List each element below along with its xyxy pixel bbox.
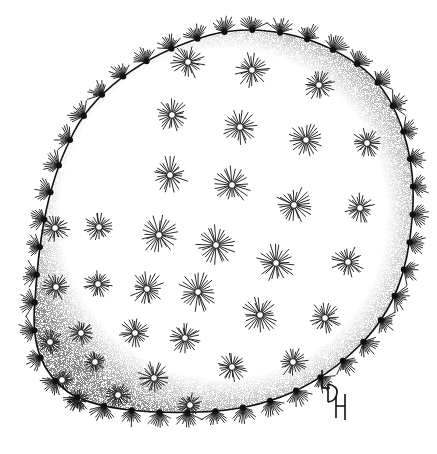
- rim-areole: [81, 113, 87, 119]
- rim-areole: [340, 358, 346, 364]
- areole-center: [357, 205, 364, 212]
- areole-center: [182, 335, 189, 342]
- spine: [280, 361, 290, 362]
- spine: [59, 286, 69, 287]
- spine: [65, 379, 73, 380]
- rim-areole: [391, 293, 397, 299]
- spine: [150, 288, 161, 289]
- rim-areole: [374, 80, 380, 86]
- areole-center: [115, 392, 122, 399]
- rim-areole: [360, 339, 366, 345]
- monogram-ldh: [322, 370, 345, 420]
- rim-areole: [407, 156, 413, 162]
- spine: [359, 193, 360, 205]
- rim-areole: [293, 388, 299, 394]
- rim-areole: [184, 409, 190, 415]
- rim-areole: [48, 189, 54, 195]
- areole-center: [169, 112, 176, 119]
- rim-areole: [330, 47, 336, 53]
- rim-areole: [390, 103, 396, 109]
- rim-spine-tuft: [87, 80, 105, 99]
- areole-center: [95, 281, 102, 288]
- rim-areole: [400, 129, 406, 135]
- areole-center: [249, 67, 256, 74]
- rim-areole: [409, 211, 415, 217]
- areole-center: [291, 202, 298, 209]
- spine: [328, 317, 339, 318]
- rim-areole: [304, 36, 310, 42]
- rim-areole: [222, 29, 228, 35]
- rim-areole: [410, 184, 416, 190]
- areole-center: [229, 364, 236, 371]
- areole-center: [257, 312, 264, 319]
- spine: [55, 217, 56, 225]
- spine: [58, 227, 66, 228]
- spine: [121, 394, 130, 395]
- areole-center: [96, 224, 103, 231]
- spine: [50, 345, 51, 354]
- areole-center: [229, 182, 236, 189]
- areole-center: [156, 232, 163, 239]
- spine: [81, 323, 82, 330]
- rim-areole: [354, 61, 360, 67]
- areole-center: [144, 286, 151, 293]
- rim-areole: [157, 409, 163, 415]
- areole-center: [345, 259, 352, 266]
- rim-areole: [212, 408, 218, 414]
- areole-center: [53, 284, 60, 291]
- rim-areole: [267, 398, 273, 404]
- rim-areole: [401, 267, 407, 273]
- rim-spine-tuft: [109, 63, 129, 79]
- areole-center: [273, 260, 280, 267]
- areole-center: [316, 82, 323, 89]
- rim-areole: [240, 405, 246, 411]
- areole-center: [237, 124, 244, 131]
- spine: [219, 245, 234, 246]
- rim-areole: [32, 327, 38, 333]
- areole-center: [59, 377, 66, 384]
- rim-areole: [129, 407, 135, 413]
- rim-spine-tuft: [40, 378, 59, 396]
- artist-signature-monogram: [318, 368, 348, 420]
- rim-areole: [144, 58, 150, 64]
- spine: [293, 190, 294, 202]
- rim-areole: [195, 36, 201, 42]
- spine: [158, 238, 159, 252]
- rim-areole: [32, 299, 38, 305]
- areole-center: [322, 315, 329, 322]
- areole-center: [52, 225, 59, 232]
- spine: [322, 85, 331, 86]
- spine: [144, 234, 156, 235]
- rim-areole: [277, 30, 283, 36]
- rim-areole: [41, 216, 47, 222]
- spine: [232, 370, 233, 377]
- areole-center: [213, 242, 220, 249]
- areole-center: [364, 140, 371, 147]
- rim-areole: [75, 394, 81, 400]
- areole-center: [151, 375, 158, 382]
- areole-center: [195, 289, 202, 296]
- rim-areole: [120, 74, 126, 80]
- rim-areole: [52, 378, 58, 384]
- rim-spine-tuft: [67, 100, 87, 122]
- rim-areole: [56, 163, 62, 169]
- areole-center: [92, 359, 99, 366]
- rim-areole: [37, 244, 43, 250]
- rim-areole: [38, 354, 44, 360]
- areole-center: [187, 402, 194, 409]
- cactus-pad-illustration: [0, 0, 437, 454]
- areole-center: [78, 330, 85, 337]
- rim-spine-tuft: [360, 337, 380, 357]
- areole-center: [185, 59, 192, 66]
- rim-areole: [67, 137, 73, 143]
- areole-center: [290, 359, 297, 366]
- areole-center: [132, 330, 139, 337]
- rim-areole: [406, 239, 412, 245]
- rim-areole: [101, 403, 107, 409]
- areole-center: [303, 137, 310, 144]
- rim-areole: [249, 27, 255, 33]
- rim-areole: [34, 272, 40, 278]
- areole-center: [167, 172, 174, 179]
- rim-areole: [378, 317, 384, 323]
- areole-center: [47, 339, 54, 346]
